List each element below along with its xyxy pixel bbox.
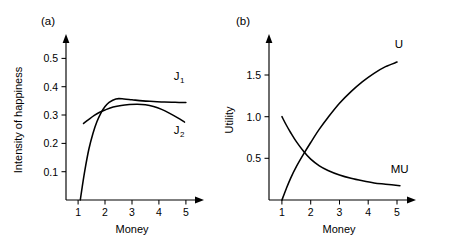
panel-a-ytick-2: 0.3 — [43, 109, 58, 121]
panel-b-ytick-0: 0.5 — [246, 152, 261, 164]
panel-b-x-tick-labels: 1 2 3 4 5 — [279, 206, 400, 218]
panel-a-xtick-3: 4 — [156, 206, 162, 218]
svg-text:1: 1 — [180, 76, 185, 85]
panel-a-x-tick-labels: 1 2 3 4 5 — [75, 206, 189, 218]
panel-a: (a) Intensity of happiness 0.1 0.2 0.3 0… — [0, 0, 225, 241]
panel-b-xtick-3: 4 — [365, 206, 371, 218]
panel-a-xtick-1: 2 — [102, 206, 108, 218]
panel-a-y-ticks — [62, 58, 67, 171]
panel-b-plot: (b) Utility 0.5 1.0 1.5 — [224, 0, 449, 241]
svg-text:2: 2 — [180, 130, 185, 139]
panel-a-xtick-0: 1 — [75, 206, 81, 218]
panel-a-ylabel: Intensity of happiness — [12, 66, 24, 173]
panel-b-y-ticks — [265, 75, 270, 158]
panel-b-ytick-1: 1.0 — [246, 111, 261, 123]
svg-text:J: J — [174, 70, 180, 82]
panel-a-label: (a) — [41, 15, 55, 27]
panel-a-y-tick-labels: 0.1 0.2 0.3 0.4 0.5 — [43, 52, 58, 177]
panel-a-y-axis-arrow — [63, 34, 70, 43]
panel-b-label: (b) — [236, 15, 250, 27]
panel-a-x-ticks — [78, 200, 186, 205]
curve-mu-label: MU — [391, 163, 409, 175]
curve-j1-label: J 1 — [174, 70, 185, 86]
panel-b-y-axis-arrow — [266, 34, 273, 43]
panel-b-xlabel: Money — [322, 223, 356, 235]
panel-b-xtick-0: 1 — [279, 206, 285, 218]
curve-u — [282, 62, 397, 200]
panel-a-ytick-4: 0.5 — [43, 52, 58, 64]
panel-b-xtick-2: 3 — [337, 206, 343, 218]
panel-b-ytick-2: 1.5 — [246, 69, 261, 81]
panel-a-xlabel: Money — [115, 223, 149, 235]
panel-a-ytick-3: 0.4 — [43, 81, 58, 93]
panel-b-x-axis-arrow — [407, 197, 416, 204]
curve-u-label: U — [395, 38, 403, 50]
panel-a-xtick-2: 3 — [129, 206, 135, 218]
panel-b-xtick-4: 5 — [394, 206, 400, 218]
panel-b: (b) Utility 0.5 1.0 1.5 — [224, 0, 449, 241]
panel-a-x-axis-arrow — [195, 197, 204, 204]
panel-b-ylabel: Utility — [224, 106, 235, 133]
panel-a-xtick-4: 5 — [183, 206, 189, 218]
panel-a-ytick-1: 0.2 — [43, 137, 58, 149]
panel-b-xtick-1: 2 — [308, 206, 314, 218]
panel-b-y-tick-labels: 0.5 1.0 1.5 — [246, 69, 261, 164]
panel-a-ytick-0: 0.1 — [43, 166, 58, 178]
figure-container: (a) Intensity of happiness 0.1 0.2 0.3 0… — [0, 0, 449, 241]
panel-a-plot: (a) Intensity of happiness 0.1 0.2 0.3 0… — [0, 0, 225, 241]
svg-text:J: J — [174, 124, 180, 136]
panel-b-x-ticks — [282, 200, 397, 205]
curve-j2 — [84, 104, 185, 123]
curve-j2-label: J 2 — [174, 124, 185, 140]
curve-mu — [282, 117, 400, 186]
